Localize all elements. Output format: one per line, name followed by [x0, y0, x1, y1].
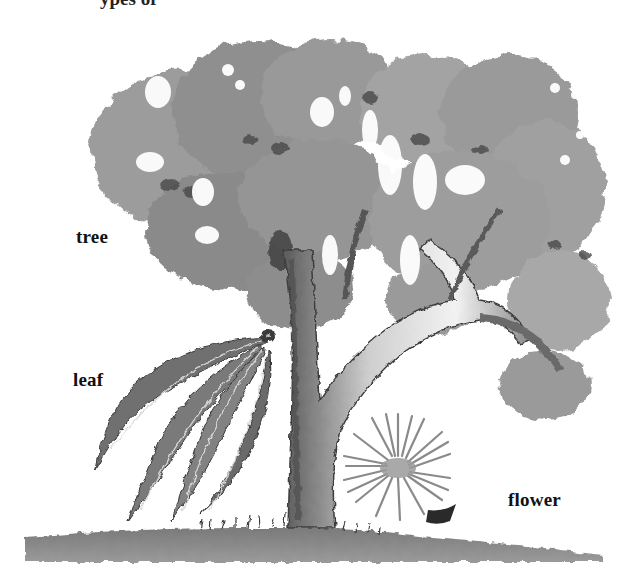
- label-leaf: leaf: [73, 370, 103, 389]
- label-flower: flower: [508, 490, 561, 509]
- label-tree: tree: [76, 227, 108, 246]
- tree-illustration: ypes of tree leaf flower: [0, 0, 622, 577]
- leaf-sprig: [96, 330, 276, 522]
- cropped-heading: ypes of: [100, 0, 156, 10]
- flower-blossom: [344, 414, 456, 524]
